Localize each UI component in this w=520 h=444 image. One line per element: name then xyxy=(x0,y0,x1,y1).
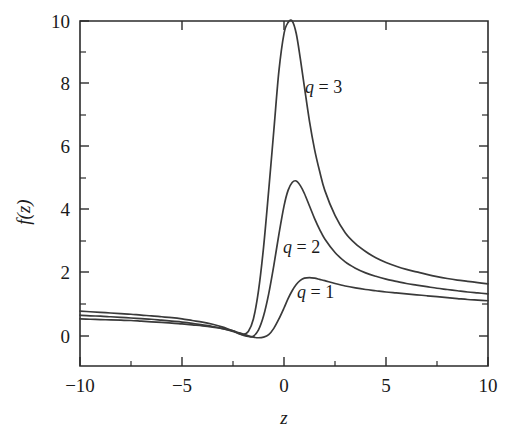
y-tick-label: 10 xyxy=(51,11,70,32)
curve-label-q3-var: q xyxy=(305,77,314,97)
plot-frame xyxy=(80,21,488,366)
data-curves xyxy=(80,20,488,338)
x-tick-labels: −10 −5 0 5 10 xyxy=(65,375,497,396)
curve-label-q2: q = 2 xyxy=(283,237,320,257)
plot-canvas: −10 −5 0 5 10 0 2 4 6 8 10 z f(z) q = 3 … xyxy=(0,0,520,444)
y-tick-labels: 0 2 4 6 8 10 xyxy=(51,11,71,347)
curve-label-q2-var: q xyxy=(283,237,292,257)
curve-label-q1: q = 1 xyxy=(297,282,334,302)
x-tick-label: 0 xyxy=(279,375,289,396)
x-tick-label: 5 xyxy=(381,375,391,396)
y-tick-label: 4 xyxy=(61,199,71,220)
x-axis-ticks xyxy=(80,357,488,366)
curve-annotations: q = 3 q = 2 q = 1 xyxy=(283,77,342,302)
y-tick-label: 2 xyxy=(61,262,71,283)
y-axis-ticks xyxy=(80,21,488,336)
chart-figure: −10 −5 0 5 10 0 2 4 6 8 10 z f(z) q = 3 … xyxy=(0,0,520,444)
curve-label-q1-rest: = 1 xyxy=(306,282,334,302)
x-axis-title: z xyxy=(279,407,288,428)
curve-q2 xyxy=(80,181,488,337)
y-axis-title: f(z) xyxy=(13,199,35,224)
x-tick-label: −5 xyxy=(172,375,192,396)
y-tick-label: 8 xyxy=(61,73,71,94)
x-tick-label: 10 xyxy=(479,375,498,396)
y-tick-label: 0 xyxy=(61,326,71,347)
curve-label-q3: q = 3 xyxy=(305,77,342,97)
curve-label-q3-rest: = 3 xyxy=(314,77,342,97)
y-tick-label: 6 xyxy=(61,136,71,157)
x-tick-label: −10 xyxy=(65,375,95,396)
curve-label-q1-var: q xyxy=(297,282,306,302)
curve-label-q2-rest: = 2 xyxy=(292,237,320,257)
